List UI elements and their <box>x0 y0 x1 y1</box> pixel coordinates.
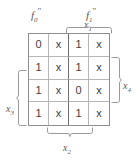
function-label-f0-prime: " <box>38 6 42 16</box>
variable-label-x1-subscript: 1 <box>88 25 92 33</box>
kmap-cell[interactable]: 1 <box>29 80 49 103</box>
kmap-cell[interactable]: x <box>89 34 109 57</box>
variable-label-x2-subscript: 2 <box>67 148 71 156</box>
karnaugh-map-figure: f0" f1" x1 x2 x3 x4 0 x 1 x 1 x 1 <box>0 0 140 162</box>
kmap-cell[interactable]: 1 <box>29 57 49 80</box>
function-label-f0: f0" <box>31 6 41 24</box>
variable-label-x4-subscript: 4 <box>127 86 131 94</box>
kmap-cell[interactable]: x <box>49 102 69 125</box>
variable-label-x3-subscript: 3 <box>10 109 14 117</box>
variable-label-x4: x4 <box>123 80 131 94</box>
function-label-f1-prime: " <box>93 6 97 16</box>
kmap-cell[interactable]: 1 <box>69 34 89 57</box>
kmap-cell[interactable]: x <box>49 80 69 103</box>
kmap-cell[interactable]: x <box>49 34 69 57</box>
kmap-cell[interactable]: x <box>89 80 109 103</box>
kmap-cell[interactable]: 1 <box>69 57 89 80</box>
kmap-cell[interactable]: x <box>89 102 109 125</box>
kmap-cell[interactable]: x <box>49 57 69 80</box>
brace-x2 <box>47 127 93 138</box>
kmap-cell[interactable]: 0 <box>29 34 49 57</box>
variable-label-x2: x2 <box>63 142 71 156</box>
kmap-cell[interactable]: 1 <box>29 102 49 125</box>
brace-x3 <box>16 70 27 126</box>
kmap-grid: 0 x 1 x 1 x 1 x 1 x 0 x 1 x 1 x <box>28 33 110 126</box>
function-label-f0-subscript: 0 <box>34 16 38 24</box>
brace-x4 <box>111 57 122 103</box>
kmap-cell[interactable]: x <box>89 57 109 80</box>
kmap-cell[interactable]: 0 <box>69 80 89 103</box>
variable-label-x3: x3 <box>6 103 14 117</box>
kmap-cell[interactable]: 1 <box>69 102 89 125</box>
variable-label-x1: x1 <box>84 19 92 33</box>
